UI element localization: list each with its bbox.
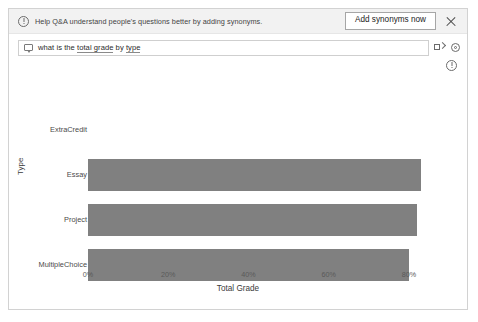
x-axis-tick: 80%: [402, 270, 416, 279]
x-axis-tick: 60%: [322, 270, 336, 279]
info-circle-icon: [18, 16, 29, 27]
category-label: ExtraCredit: [29, 125, 87, 134]
x-axis-tick: 20%: [161, 270, 175, 279]
rephrase-icon[interactable]: [434, 42, 445, 53]
gear-icon[interactable]: [450, 42, 461, 53]
x-axis-tick: 40%: [241, 270, 255, 279]
query-entity-dimension: type: [126, 43, 141, 53]
notification-message: Help Q&A understand people's questions b…: [35, 17, 345, 26]
bar-essay[interactable]: [88, 159, 421, 191]
category-label: MultipleChoice: [29, 260, 87, 269]
speech-bubble-icon: [24, 44, 33, 51]
query-input[interactable]: what is the total grade by type: [18, 40, 429, 56]
bar-chart: Type Total Grade ExtraCreditEssayProject…: [9, 79, 467, 309]
close-icon[interactable]: [444, 14, 458, 28]
x-axis-title: Total Grade: [9, 284, 467, 293]
query-row: what is the total grade by type: [9, 38, 467, 57]
info-circle-icon[interactable]: [446, 60, 457, 71]
category-label: Essay: [29, 170, 87, 179]
query-entity-measure: total grade: [77, 43, 113, 53]
query-prefix: what is the: [38, 43, 77, 52]
add-synonyms-button[interactable]: Add synonyms now: [345, 12, 436, 29]
query-middle: by: [113, 43, 125, 52]
chart-info-row: [9, 57, 467, 73]
bar-project[interactable]: [88, 204, 417, 236]
category-label: Project: [29, 215, 87, 224]
x-axis-tick: 0%: [83, 270, 93, 279]
query-text: what is the total grade by type: [38, 43, 140, 52]
qna-visual-panel: Help Q&A understand people's questions b…: [8, 8, 468, 310]
y-axis-title: Type: [16, 158, 25, 175]
synonyms-notification-bar: Help Q&A understand people's questions b…: [9, 9, 467, 34]
